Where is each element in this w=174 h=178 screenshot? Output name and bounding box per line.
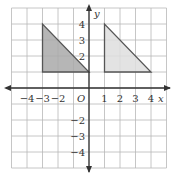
x-tick-label: 1 <box>101 93 107 104</box>
y-tick-label: −3 <box>70 131 85 142</box>
y-axis-top-arrow-icon <box>86 4 92 11</box>
triangle-right <box>105 24 152 72</box>
x-tick-label: 3 <box>132 93 138 104</box>
y-tick-label: −2 <box>70 115 85 126</box>
y-tick-label: 3 <box>79 35 85 46</box>
y-tick-label: −4 <box>70 147 85 158</box>
x-tick-label: 2 <box>117 93 123 104</box>
x-tick-label: −4 <box>20 93 35 104</box>
coordinate-plane: −4−3−21234432−2−3−4 x y O <box>0 0 174 178</box>
triangle-left <box>43 24 90 72</box>
origin-label: O <box>77 93 85 104</box>
x-tick-label: −2 <box>51 93 66 104</box>
x-tick-label: −3 <box>35 93 50 104</box>
y-tick-label: 2 <box>79 51 85 62</box>
shapes <box>43 24 152 72</box>
y-tick-label: 4 <box>79 19 85 30</box>
x-tick-label: 4 <box>148 93 154 104</box>
x-axis-left-arrow-icon <box>4 85 11 91</box>
axes <box>4 4 171 173</box>
y-axis-label: y <box>93 8 100 19</box>
y-axis-bottom-arrow-icon <box>86 166 92 173</box>
x-axis-label: x <box>158 93 164 104</box>
x-axis-right-arrow-icon <box>164 85 171 91</box>
